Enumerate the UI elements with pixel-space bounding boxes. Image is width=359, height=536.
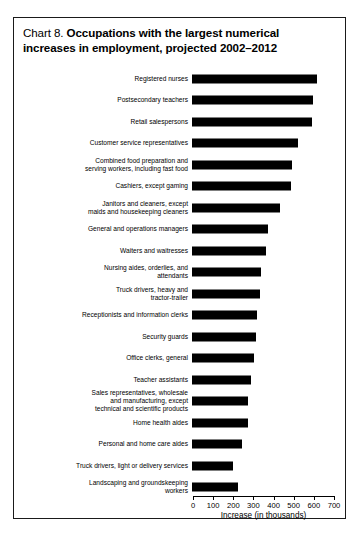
x-axis-tick <box>193 496 194 500</box>
bar-category-label: Security guards <box>14 333 192 341</box>
bar <box>192 139 298 148</box>
bar <box>192 268 261 277</box>
bar-category-label: Registered nurses <box>14 75 192 83</box>
chart-row: Security guards <box>14 326 347 348</box>
bar-category-label-line: Landscaping and groundskeeping <box>14 479 188 487</box>
bar-category-label: Office clerks, general <box>14 354 192 362</box>
bar-track <box>192 197 347 219</box>
bar-track <box>192 111 347 133</box>
chart-row: Teacher assistants <box>14 369 347 391</box>
bar-category-label-line: Truck drivers, light or delivery service… <box>14 462 188 470</box>
bar-track <box>192 455 347 477</box>
bar-category-label: Janitors and cleaners, exceptmaids and h… <box>14 200 192 216</box>
bar-track <box>192 219 347 241</box>
bar-category-label: Customer service representatives <box>14 139 192 147</box>
bar-category-label-line: Home health aides <box>14 419 188 427</box>
bar <box>192 182 291 191</box>
bar-category-label-line: Truck drivers, heavy and <box>14 286 188 294</box>
bar-category-label: Postsecondary teachers <box>14 96 192 104</box>
chart-row: Combined food preparation andserving wor… <box>14 154 347 176</box>
bar <box>192 332 256 341</box>
bar-track <box>192 240 347 262</box>
bar <box>192 375 251 384</box>
bar-category-label: Retail salespersons <box>14 118 192 126</box>
bar-category-label: Landscaping and groundskeepingworkers <box>14 479 192 495</box>
chart-row: Janitors and cleaners, exceptmaids and h… <box>14 197 347 219</box>
bar-category-label: Receptionists and information clerks <box>14 311 192 319</box>
bar <box>192 354 254 363</box>
x-axis: Increase (in thousands) 0100200300400500… <box>14 496 347 520</box>
chart-row: Registered nurses <box>14 68 347 90</box>
x-axis-tick <box>314 496 315 500</box>
bar-category-label-line: Janitors and cleaners, except <box>14 200 188 208</box>
bar-category-label: Combined food preparation andserving wor… <box>14 157 192 173</box>
bar-category-label-line: Personal and home care aides <box>14 440 188 448</box>
bar-track <box>192 326 347 348</box>
bar-track <box>192 283 347 305</box>
bar <box>192 203 280 212</box>
bar-track <box>192 412 347 434</box>
chart-panel: Chart 8. Occupations with the largest nu… <box>13 17 346 519</box>
x-axis-tick-label: 400 <box>267 501 280 510</box>
bar <box>192 397 248 406</box>
bar-category-label: Home health aides <box>14 419 192 427</box>
bar-category-label-line: Security guards <box>14 333 188 341</box>
chart-row: Truck drivers, light or delivery service… <box>14 455 347 477</box>
bar-category-label-line: Teacher assistants <box>14 376 188 384</box>
chart-number: Chart 8. <box>23 26 63 39</box>
chart-row: Sales representatives, wholesaleand manu… <box>14 391 347 413</box>
chart-row: Truck drivers, heavy andtractor-trailer <box>14 283 347 305</box>
chart-title-text-1: Occupations with the largest numerical <box>67 26 280 39</box>
chart-row: Cashiers, except gaming <box>14 176 347 198</box>
chart-row: Customer service representatives <box>14 133 347 155</box>
bar-track <box>192 68 347 90</box>
bar <box>192 289 260 298</box>
x-axis-tick-label: 600 <box>308 501 321 510</box>
x-axis-tick <box>253 496 254 500</box>
chart-row: Home health aides <box>14 412 347 434</box>
x-axis-tick <box>294 496 295 500</box>
chart-title: Chart 8. Occupations with the largest nu… <box>23 25 337 55</box>
bar-category-label-line: Registered nurses <box>14 75 188 83</box>
chart-title-line-2: increases in employment, projected 2002–… <box>23 40 337 55</box>
bar-track <box>192 369 347 391</box>
chart-row: Landscaping and groundskeepingworkers <box>14 477 347 499</box>
bar-track <box>192 90 347 112</box>
bar <box>192 483 238 492</box>
bar-track <box>192 262 347 284</box>
bar-category-label-line: and manufacturing, except <box>14 397 188 405</box>
chart-row: Waiters and waitresses <box>14 240 347 262</box>
x-axis-tick <box>233 496 234 500</box>
bar <box>192 440 242 449</box>
bar-category-label-line: Combined food preparation and <box>14 157 188 165</box>
bar-category-label-line: Nursing aides, orderlies, and <box>14 264 188 272</box>
bar <box>192 96 313 105</box>
bar-category-label: Waiters and waitresses <box>14 247 192 255</box>
chart-row: Postsecondary teachers <box>14 90 347 112</box>
chart-row: Office clerks, general <box>14 348 347 370</box>
bar-track <box>192 176 347 198</box>
bar <box>192 225 268 234</box>
bar-category-label-line: Customer service representatives <box>14 139 188 147</box>
bar <box>192 117 312 126</box>
bar-category-label: Personal and home care aides <box>14 440 192 448</box>
x-axis-tick-label: 100 <box>207 501 220 510</box>
bar-category-label-line: General and operations managers <box>14 225 188 233</box>
x-axis-tick <box>334 496 335 500</box>
x-axis-tick <box>274 496 275 500</box>
x-axis-tick-label: 200 <box>227 501 240 510</box>
bar-track <box>192 477 347 499</box>
bar-category-label-line: tractor-trailer <box>14 294 188 302</box>
bar <box>192 461 233 470</box>
bar-category-label: Cashiers, except gaming <box>14 182 192 190</box>
bar-category-label-line: Sales representatives, wholesale <box>14 389 188 397</box>
bar-category-label-line: Waiters and waitresses <box>14 247 188 255</box>
bar <box>192 74 317 83</box>
bar-category-label: Nursing aides, orderlies, andattendants <box>14 264 192 280</box>
bar-category-label-line: maids and housekeeping cleaners <box>14 208 188 216</box>
x-axis-tick-label: 500 <box>287 501 300 510</box>
bar-category-label-line: workers <box>14 487 188 495</box>
x-axis-title: Increase (in thousands) <box>193 511 334 520</box>
chart-row: Receptionists and information clerks <box>14 305 347 327</box>
x-axis-tick-label: 300 <box>247 501 260 510</box>
